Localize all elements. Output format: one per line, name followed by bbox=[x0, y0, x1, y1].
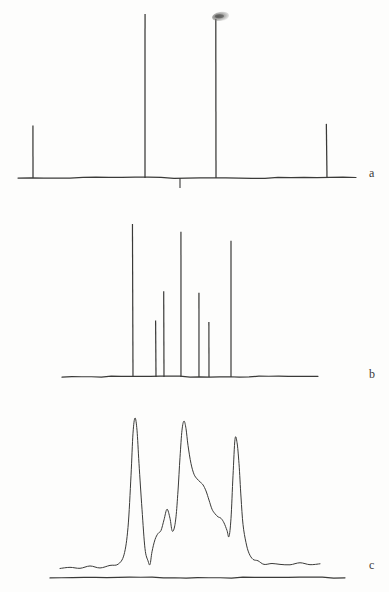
panel-a-axis bbox=[18, 177, 356, 178]
panel-b-label: b bbox=[369, 367, 376, 382]
spectra-figure: a b c bbox=[0, 0, 389, 592]
panel-c-plot bbox=[0, 400, 389, 592]
panel-a-stick-lines bbox=[33, 14, 327, 178]
panel-c-axis bbox=[50, 577, 345, 578]
panel-a-plot bbox=[0, 0, 389, 200]
panel-c-label: c bbox=[369, 558, 375, 573]
panel-c bbox=[0, 400, 389, 592]
panel-b-axis bbox=[62, 376, 318, 377]
panel-b-stick-lines bbox=[132, 224, 231, 377]
spectrum-curve bbox=[60, 418, 320, 569]
panel-b bbox=[0, 200, 389, 400]
panel-b-plot bbox=[0, 200, 389, 400]
axis-baseline bbox=[18, 177, 356, 178]
panel-a-label: a bbox=[369, 166, 375, 181]
axis-baseline bbox=[62, 376, 318, 377]
panel-c-spectrum-trace bbox=[60, 418, 320, 569]
stick-line bbox=[326, 124, 327, 178]
stick-line bbox=[132, 224, 133, 377]
panel-a bbox=[0, 0, 389, 200]
axis-baseline bbox=[50, 577, 345, 578]
